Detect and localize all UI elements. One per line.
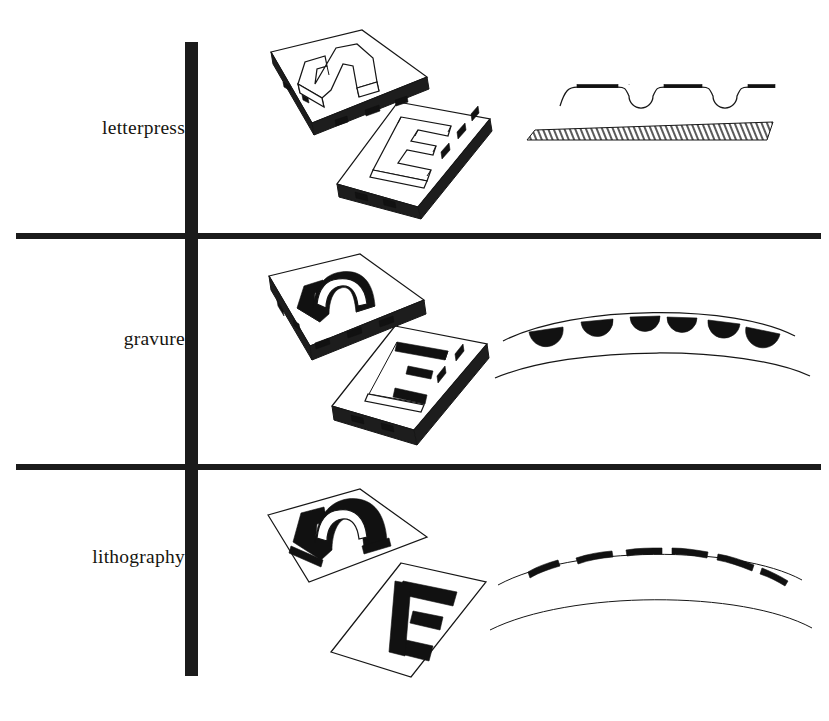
row-label-gravure: gravure: [0, 328, 185, 350]
row-label-text: lithography: [17, 546, 185, 568]
paper-curve-lower: [490, 600, 812, 630]
row-label-text: letterpress: [17, 117, 185, 139]
hatched-type-block: [527, 122, 773, 140]
plate-lower-e: [332, 326, 489, 445]
vertical-divider-rule: [185, 42, 198, 676]
horizontal-divider-rule-2: [16, 464, 821, 470]
plate-lower-e: [337, 102, 492, 219]
paper-curve-lower: [495, 353, 810, 378]
lithography-cross-section: [490, 535, 825, 655]
sheet-lower-e: [331, 563, 486, 677]
row-label-lithography: lithography: [0, 546, 185, 568]
row-label-text: gravure: [17, 328, 185, 350]
row-label-letterpress: letterpress: [0, 117, 185, 139]
printing-process-figure: letterpress gravure lithography: [0, 0, 829, 721]
relief-plates-illustration: [205, 22, 505, 237]
ink-dashes: [528, 548, 788, 586]
intaglio-plates-illustration: [205, 248, 505, 458]
planographic-plates-illustration: [205, 480, 510, 700]
gravure-cross-section: [495, 298, 825, 408]
paper-profile: [560, 87, 775, 108]
letterpress-cross-section: [505, 78, 825, 156]
